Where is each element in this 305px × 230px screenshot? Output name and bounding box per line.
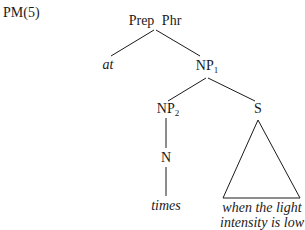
s-text-line1: when the light (220, 200, 304, 215)
np1-label: NP (196, 58, 214, 73)
node-at: at (103, 58, 114, 72)
np1-subscript: 1 (214, 65, 219, 75)
s-text-line2: intensity is low (220, 215, 304, 230)
node-times: times (151, 199, 181, 213)
np2-subscript: 2 (175, 108, 180, 118)
edge-prepphr-at (111, 30, 154, 56)
node-n: N (161, 151, 171, 165)
node-s-text: when the light intensity is low (220, 200, 304, 230)
node-np1: NP1 (196, 59, 218, 77)
edge-prepphr-np1 (156, 30, 200, 56)
diagram-label: PM(5) (3, 6, 40, 20)
node-prep-phr: Prep Phr (129, 14, 182, 28)
node-s: S (254, 102, 262, 116)
edge-np1-np2 (168, 78, 206, 101)
np2-label: NP (157, 101, 175, 116)
s-triangle (223, 120, 300, 198)
edge-np1-s (208, 78, 255, 101)
node-np2: NP2 (157, 102, 179, 120)
